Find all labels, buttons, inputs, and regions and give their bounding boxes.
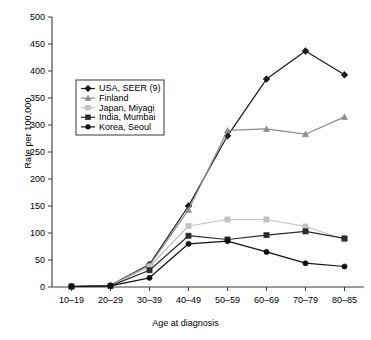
x-tick-label: 20–29	[98, 295, 123, 305]
legend-label[interactable]: Finland	[99, 93, 129, 103]
x-tick-label: 50–59	[215, 295, 240, 305]
data-point-marker	[342, 236, 347, 241]
y-tick-label: 250	[30, 147, 45, 157]
plot-area: 050100150200250300350400450500 10–1920–2…	[0, 0, 371, 340]
chart-container: Rate per 100,000 Age at diagnosis 050100…	[0, 0, 371, 340]
chart-legend: USA, SEER (9)FinlandJapan, MiyagiIndia, …	[76, 80, 164, 135]
series-japan-miyagi	[69, 217, 347, 289]
x-tick-label: 80–85	[332, 295, 357, 305]
data-point-marker	[186, 233, 191, 238]
series-korea-seoul	[69, 239, 347, 290]
data-point-marker	[86, 105, 91, 110]
data-point-marker	[342, 264, 347, 269]
data-point-marker	[303, 224, 308, 229]
data-point-marker	[69, 284, 74, 289]
y-tick-label: 350	[30, 93, 45, 103]
x-tick-label: 60–69	[254, 295, 279, 305]
y-tick-label: 150	[30, 201, 45, 211]
data-point-marker	[147, 268, 152, 273]
x-tick-label: 70–79	[293, 295, 318, 305]
data-point-marker	[186, 241, 191, 246]
y-tick-label: 300	[30, 120, 45, 130]
y-tick-label: 0	[40, 282, 45, 292]
y-axis: 050100150200250300350400450500	[30, 12, 52, 292]
legend-label[interactable]: India, Mumbai	[99, 112, 156, 122]
data-point-marker	[264, 217, 269, 222]
y-tick-label: 400	[30, 66, 45, 76]
y-tick-label: 100	[30, 228, 45, 238]
data-point-marker	[147, 275, 152, 280]
data-point-marker	[86, 115, 91, 120]
y-tick-label: 500	[30, 12, 45, 22]
data-point-marker	[225, 217, 230, 222]
legend-label[interactable]: USA, SEER (9)	[99, 83, 161, 93]
data-point-marker	[264, 233, 269, 238]
data-point-marker	[303, 261, 308, 266]
legend-label[interactable]: Korea, Seoul	[99, 122, 151, 132]
data-point-marker	[264, 249, 269, 254]
data-point-marker	[225, 239, 230, 244]
series-india-mumbai	[69, 229, 347, 289]
y-tick-label: 50	[35, 255, 45, 265]
data-point-marker	[303, 229, 308, 234]
data-point-marker	[341, 71, 348, 78]
data-point-marker	[108, 283, 113, 288]
data-point-marker	[342, 114, 348, 120]
x-tick-label: 30–39	[137, 295, 162, 305]
x-tick-label: 10–19	[59, 295, 84, 305]
x-axis: 10–1920–2930–3940–4950–5960–6970–7980–85	[59, 287, 357, 305]
y-tick-label: 200	[30, 174, 45, 184]
series-line	[72, 117, 345, 287]
y-tick-label: 450	[30, 39, 45, 49]
data-point-marker	[186, 223, 191, 228]
series-line	[72, 231, 345, 286]
legend-label[interactable]: Japan, Miyagi	[99, 103, 155, 113]
x-tick-label: 40–49	[176, 295, 201, 305]
data-point-marker	[86, 125, 91, 130]
